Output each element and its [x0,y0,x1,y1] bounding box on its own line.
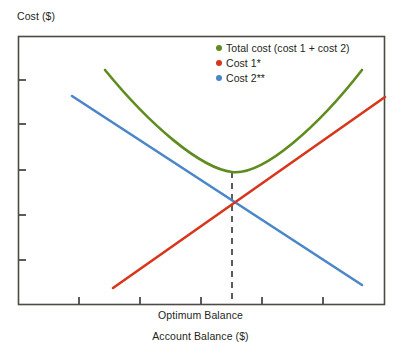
legend-label-total-cost: Total cost (cost 1 + cost 2) [226,42,350,55]
legend-item-cost-1: Cost 1* [216,56,350,70]
legend-marker-total-cost-icon [216,45,222,51]
legend-item-total-cost: Total cost (cost 1 + cost 2) [216,41,350,55]
legend-item-cost-2: Cost 2** [216,71,350,85]
legend-marker-cost-1-icon [216,60,222,66]
chart-legend: Total cost (cost 1 + cost 2) Cost 1* Cos… [216,41,350,85]
legend-marker-cost-2-icon [216,75,222,81]
legend-label-cost-2: Cost 2** [226,72,265,85]
optimum-balance-annotation-label: Optimum Balance [0,309,401,321]
legend-label-cost-1: Cost 1* [226,57,261,70]
x-axis-title: Account Balance ($) [0,330,401,342]
